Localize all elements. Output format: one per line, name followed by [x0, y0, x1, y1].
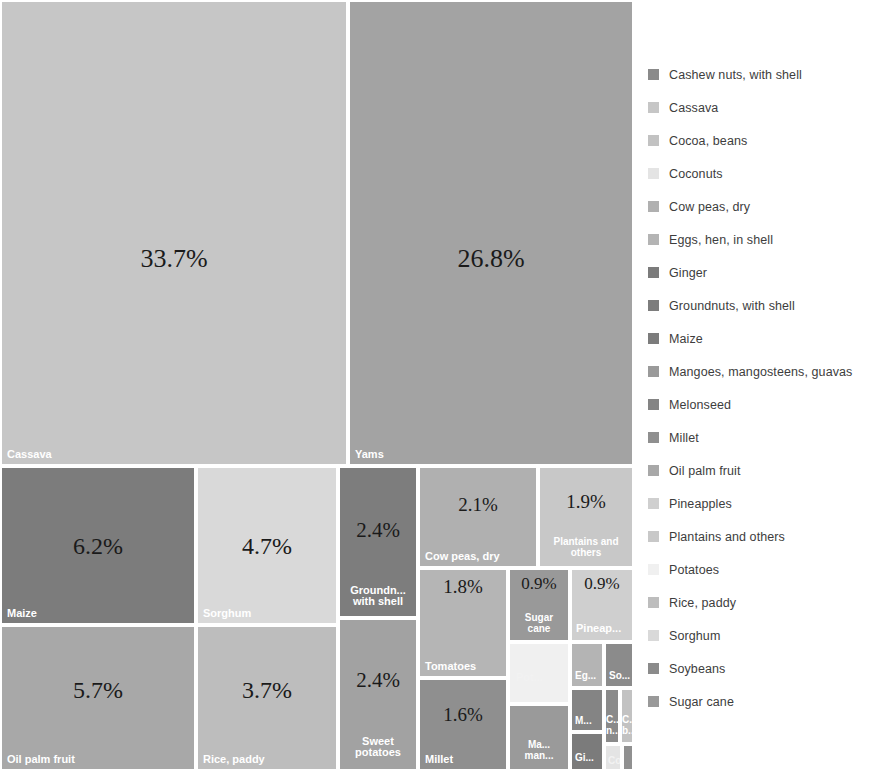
tile-percent: 0.9% [510, 575, 568, 592]
legend-item-13[interactable]: Pineapples [648, 487, 872, 520]
treemap-tile-melonseed[interactable]: M... [570, 688, 604, 732]
tile-percent: 0.9% [572, 575, 632, 592]
tile-percent: 33.7% [2, 246, 346, 272]
legend-item-label: Sugar cane [669, 695, 734, 709]
tile-percent: 5.7% [2, 678, 194, 702]
tile-label: M... [575, 716, 592, 727]
legend-swatch-icon [648, 531, 659, 542]
treemap-tile-tomatoes[interactable]: 1.8% Tomatoes [418, 568, 508, 678]
treemap-tile-groundnuts-with-shell[interactable]: 2.4% Groundn... with shell [338, 466, 418, 618]
tile-label-line2: cane [528, 623, 551, 634]
treemap-tile-cocoa-beans[interactable]: C... b... [620, 688, 634, 744]
legend-item-15[interactable]: Potatoes [648, 553, 872, 586]
treemap-tile-millet[interactable]: 1.6% Millet [418, 678, 508, 771]
tile-label-line1: Plantains and [553, 536, 618, 547]
tile-label: Plantains and others [540, 537, 632, 558]
legend-item-14[interactable]: Plantains and others [648, 520, 872, 553]
treemap-tile-sweet-potatoes[interactable]: 2.4% Sweet potatoes [338, 618, 418, 771]
tile-label: Sweet potatoes [340, 736, 416, 759]
legend-item-label: Oil palm fruit [669, 464, 741, 478]
treemap-tile-rice-paddy[interactable]: 3.7% Rice, paddy [196, 625, 338, 771]
tile-label-line1: Groundn... [350, 584, 406, 596]
legend-item-18[interactable]: Soybeans [648, 652, 872, 685]
tile-label: Rice, paddy [203, 754, 265, 766]
tile-label-line2: potatoes [355, 746, 401, 758]
tile-label: Sugar cane [510, 613, 568, 634]
legend-item-label: Potatoes [669, 563, 719, 577]
tile-percent: 4.7% [198, 534, 336, 558]
tile-label-line2: man... [525, 750, 554, 761]
treemap-tile-plantains-and-others[interactable]: 1.9% Plantains and others [538, 466, 634, 568]
tile-label: Eg... [575, 671, 596, 682]
legend-item-label: Coconuts [669, 167, 723, 181]
legend-item-label: Pineapples [669, 497, 732, 511]
legend-item-7[interactable]: Groundnuts, with shell [648, 289, 872, 322]
legend-item-label: Rice, paddy [669, 596, 736, 610]
tile-label-line1: C... [622, 714, 634, 725]
treemap-plot-area: 33.7% Cassava 26.8% Yams 6.2% Maize 4.7%… [0, 0, 634, 771]
treemap-tile-oil-palm-fruit[interactable]: 5.7% Oil palm fruit [0, 625, 196, 771]
treemap-tile-coconuts[interactable]: Co... [604, 744, 622, 771]
tile-percent: 26.8% [350, 246, 632, 272]
treemap-tile-sugar-cane[interactable]: 0.9% Sugar cane [508, 568, 570, 642]
treemap-tile-pineapples[interactable]: 0.9% Pineap... [570, 568, 634, 642]
legend-item-0[interactable]: Cashew nuts, with shell [648, 58, 872, 91]
treemap-tile-potatoes[interactable]: Pot... [508, 642, 570, 704]
legend-item-5[interactable]: Eggs, hen, in shell [648, 223, 872, 256]
tile-label-line1: Sweet [362, 735, 394, 747]
treemap-tile-ginger[interactable]: Gi... [570, 732, 604, 771]
legend-item-9[interactable]: Mangoes, mangosteens, guavas [648, 355, 872, 388]
legend-item-label: Melonseed [669, 398, 731, 412]
legend-item-19[interactable]: Sugar cane [648, 685, 872, 718]
legend-swatch-icon [648, 267, 659, 278]
legend-item-12[interactable]: Oil palm fruit [648, 454, 872, 487]
legend-item-label: Millet [669, 431, 699, 445]
legend-item-label: Cow peas, dry [669, 200, 750, 214]
treemap-tile-cassava[interactable]: 33.7% Cassava [0, 0, 348, 466]
legend-item-1[interactable]: Cassava [648, 91, 872, 124]
treemap-tile-cow-peas-dry[interactable]: 2.1% Cow peas, dry [418, 466, 538, 568]
tile-label: C... n... [606, 715, 618, 736]
legend-swatch-icon [648, 69, 659, 80]
tile-percent: 2.4% [340, 670, 416, 691]
legend-swatch-icon [648, 234, 659, 245]
tile-label: Pineap... [576, 623, 621, 635]
tile-label: Co... [608, 756, 622, 767]
legend-item-3[interactable]: Coconuts [648, 157, 872, 190]
legend-item-10[interactable]: Melonseed [648, 388, 872, 421]
legend-item-6[interactable]: Ginger [648, 256, 872, 289]
legend-swatch-icon [648, 168, 659, 179]
tile-percent: 3.7% [198, 678, 336, 702]
legend-item-8[interactable]: Maize [648, 322, 872, 355]
legend-item-11[interactable]: Millet [648, 421, 872, 454]
treemap-tile-mangoes-mangosteens-guavas[interactable]: Ma... man... [508, 704, 570, 771]
legend-swatch-icon [648, 564, 659, 575]
tile-label-line1: Ma... [528, 739, 550, 750]
legend-item-4[interactable]: Cow peas, dry [648, 190, 872, 223]
treemap-tile-maize[interactable]: 6.2% Maize [0, 466, 196, 625]
tile-percent: 6.2% [2, 534, 194, 558]
tile-label: So... [609, 671, 630, 682]
legend-item-label: Mangoes, mangosteens, guavas [669, 365, 852, 379]
treemap-tile-soybeans[interactable]: So... [604, 642, 634, 688]
legend-item-2[interactable]: Cocoa, beans [648, 124, 872, 157]
legend-item-17[interactable]: Sorghum [648, 619, 872, 652]
tile-label: Millet [425, 754, 453, 766]
legend-item-16[interactable]: Rice, paddy [648, 586, 872, 619]
treemap-tile-cashew-nuts-with-shell[interactable]: C... n... [604, 688, 620, 744]
legend-swatch-icon [648, 465, 659, 476]
treemap-tile-other-small[interactable] [622, 744, 634, 771]
legend-swatch-icon [648, 201, 659, 212]
tile-percent: 1.6% [420, 705, 506, 724]
tile-label: Cow peas, dry [425, 551, 500, 563]
treemap-tile-eggs-hen-in-shell[interactable]: Eg... [570, 642, 604, 688]
tile-label: Yams [355, 449, 384, 461]
legend-swatch-icon [648, 597, 659, 608]
treemap-tile-yams[interactable]: 26.8% Yams [348, 0, 634, 466]
legend-item-label: Maize [669, 332, 703, 346]
legend-swatch-icon [648, 333, 659, 344]
tile-percent: 2.1% [420, 495, 536, 514]
tile-percent: 1.8% [420, 577, 506, 596]
treemap-tile-sorghum[interactable]: 4.7% Sorghum [196, 466, 338, 625]
legend-swatch-icon [648, 498, 659, 509]
